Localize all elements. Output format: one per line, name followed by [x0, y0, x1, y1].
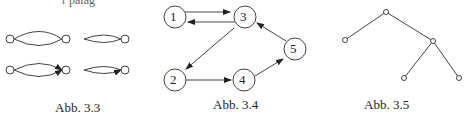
figure-3-4-graph — [164, 6, 306, 91]
caption-fig-3-5: Abb. 3.5 — [364, 97, 409, 113]
node-label-2: 2 — [170, 72, 177, 88]
figure-3-3-loops — [6, 32, 129, 77]
node-label-4: 4 — [239, 72, 246, 88]
node-label-3: 3 — [240, 9, 247, 25]
caption-fig-3-4: Abb. 3.4 — [213, 97, 258, 113]
figure-3-5-tree — [343, 10, 462, 81]
node-label-5: 5 — [290, 41, 297, 57]
caption-fig-3-3: Abb. 3.3 — [55, 100, 100, 116]
node-label-1: 1 — [170, 9, 177, 25]
